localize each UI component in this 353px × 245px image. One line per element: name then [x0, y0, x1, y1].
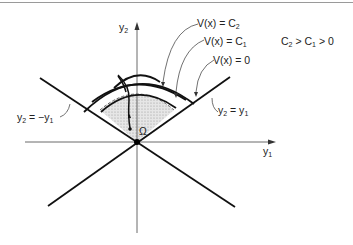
y1-axis-label: y1	[263, 145, 272, 158]
region-omega-label: Ω	[139, 125, 147, 137]
origin-point	[134, 139, 140, 145]
y1-axis-arrow-icon	[268, 140, 276, 145]
y2-axis-label: y2	[119, 21, 128, 34]
leader-c2	[163, 24, 198, 82]
constant-condition-label: C2 > C1 > 0	[281, 35, 334, 48]
level-c1-label: V(x) = C1	[204, 35, 247, 48]
level-c2-label: V(x) = C2	[197, 17, 240, 30]
level-zero-label: V(x) = 0	[213, 54, 250, 66]
neg-diagonal-label: y2 = −y1	[17, 111, 54, 124]
lyapunov-diagram: y2 y1 y2 = −y1 y2 = y1 V(x) = C2 V(x) = …	[0, 0, 353, 245]
leader-zero	[196, 60, 214, 92]
trajectory-endpoint	[128, 127, 132, 131]
pos-diagonal-label: y2 = y1	[218, 104, 248, 117]
leader-c1	[176, 40, 204, 92]
leader-zero-arrow-icon	[194, 92, 198, 97]
leader-neg-diag	[60, 104, 70, 117]
y2-axis-arrow-icon	[135, 22, 140, 30]
